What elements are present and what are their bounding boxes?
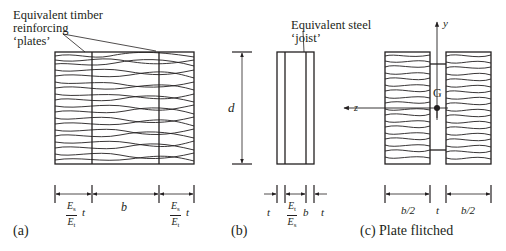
dim-a-right-plate-t: t <box>186 206 189 219</box>
caption-a: (a) <box>13 223 29 239</box>
dim-c-middle-t: t <box>436 204 439 217</box>
callout-leader-right <box>63 34 156 51</box>
dim-c-right-b-half: b/2 <box>461 204 475 217</box>
caption-b: (b) <box>231 223 247 239</box>
dim-a-left-plate-ratio: Es Et <box>66 201 77 230</box>
callout-steel-joist-line2: ‘joist’ <box>291 32 321 45</box>
wood-grain-lines <box>55 52 194 161</box>
callout-leader-left <box>63 34 85 52</box>
centroid-dot <box>434 105 440 111</box>
steel-outline <box>277 52 314 164</box>
wood-grain-right <box>446 55 491 159</box>
axis-label-y: y <box>443 17 448 30</box>
panel-c-flitched-section <box>344 22 491 203</box>
dim-a-right-plate-ratio: Es Et <box>170 201 181 230</box>
wood-grain-left <box>385 55 430 158</box>
dim-a-left-plate-t: t <box>82 206 85 219</box>
panel-a-timber-section <box>55 34 194 203</box>
depth-label-d: d <box>228 101 235 114</box>
dim-a-middle-b: b <box>121 201 127 214</box>
centroid-label-g: G <box>433 87 442 100</box>
dim-b-right-t: t <box>321 206 324 219</box>
panel-b-steel-section <box>232 31 327 203</box>
callout-timber-plates-line3: ‘plates’ <box>13 35 50 48</box>
dim-b-middle-ratio: Et Es <box>287 201 297 230</box>
dim-b-left-t: t <box>267 206 270 219</box>
axis-label-z: z <box>354 101 358 114</box>
caption-c: (c) Plate flitched <box>360 223 453 239</box>
dim-c-left-b-half: b/2 <box>401 204 415 217</box>
dim-b-middle-b: b <box>303 206 309 219</box>
